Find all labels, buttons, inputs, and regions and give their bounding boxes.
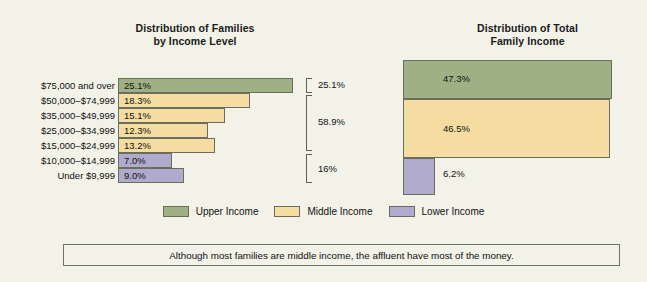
rbar-lower [403, 158, 435, 195]
rbar-upper [403, 60, 612, 99]
rbar-value-lower: 6.2% [443, 168, 465, 179]
legend: Upper Income Middle Income Lower Income [0, 206, 647, 217]
legend-item-lower: Lower Income [389, 206, 485, 217]
legend-label-lower: Lower Income [422, 206, 485, 217]
legend-swatch-middle-icon [274, 206, 300, 217]
infographic-panel: Distribution of Families by Income Level… [0, 0, 647, 282]
legend-item-upper: Upper Income [163, 206, 259, 217]
legend-label-middle: Middle Income [307, 206, 372, 217]
right-chart: Distribution of Total Family Income 47.3… [0, 0, 647, 200]
caption-text: Although most families are middle income… [169, 250, 513, 261]
caption-box: Although most families are middle income… [63, 244, 620, 266]
legend-swatch-lower-icon [389, 206, 415, 217]
right-chart-title: Distribution of Total Family Income [440, 22, 615, 48]
rbar-middle [403, 99, 610, 158]
right-chart-title-line2: Family Income [490, 35, 564, 47]
legend-item-middle: Middle Income [274, 206, 372, 217]
legend-label-upper: Upper Income [196, 206, 259, 217]
legend-swatch-upper-icon [163, 206, 189, 217]
rbar-value-middle: 46.5% [443, 123, 470, 134]
right-chart-title-line1: Distribution of Total [477, 22, 578, 34]
rbar-value-upper: 47.3% [443, 73, 470, 84]
